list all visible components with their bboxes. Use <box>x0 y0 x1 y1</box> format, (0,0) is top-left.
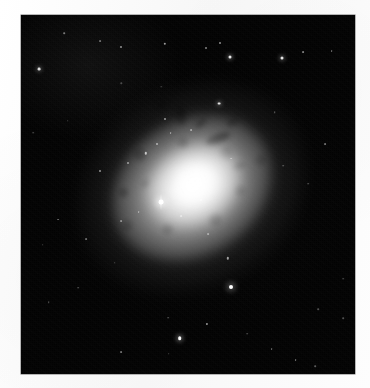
star <box>67 120 69 122</box>
star <box>331 50 333 52</box>
star <box>207 233 209 235</box>
star <box>164 118 166 120</box>
galaxy <box>21 15 355 374</box>
star <box>274 111 276 113</box>
star <box>156 143 158 145</box>
star <box>42 244 44 246</box>
star <box>127 162 129 164</box>
star <box>86 238 88 240</box>
star <box>180 215 182 217</box>
star <box>38 67 41 70</box>
star <box>219 42 221 44</box>
star <box>120 46 122 48</box>
star <box>200 199 202 201</box>
star <box>138 211 140 213</box>
star <box>217 102 220 105</box>
star <box>168 353 170 355</box>
star <box>282 165 284 167</box>
star <box>228 56 231 59</box>
star <box>114 262 116 264</box>
star <box>190 129 192 131</box>
star <box>343 278 345 280</box>
star <box>302 51 304 53</box>
star <box>314 365 316 367</box>
scanned-page: . . . . . . . . . . <box>0 0 370 388</box>
star <box>178 336 182 340</box>
star <box>120 351 122 353</box>
star <box>120 221 122 223</box>
star <box>99 40 101 42</box>
star <box>230 158 232 160</box>
star <box>32 132 34 134</box>
star <box>170 133 172 135</box>
star <box>295 359 297 361</box>
bright-point-source <box>159 200 164 205</box>
star <box>280 57 283 60</box>
star <box>57 219 59 221</box>
star <box>167 317 169 319</box>
star <box>324 143 326 145</box>
star <box>271 348 273 350</box>
star <box>78 287 80 289</box>
star <box>343 318 345 320</box>
star <box>99 170 101 172</box>
clipped-header-text-row: . . . . . . . . . . <box>0 0 370 7</box>
star <box>229 285 233 289</box>
star <box>317 309 319 311</box>
galaxy-image-plate <box>21 15 355 374</box>
star <box>307 183 309 185</box>
star <box>205 47 207 49</box>
star <box>64 32 66 34</box>
clipped-header-text: . . . . . . . . . . <box>0 0 46 2</box>
star <box>48 301 50 303</box>
star <box>247 333 249 335</box>
